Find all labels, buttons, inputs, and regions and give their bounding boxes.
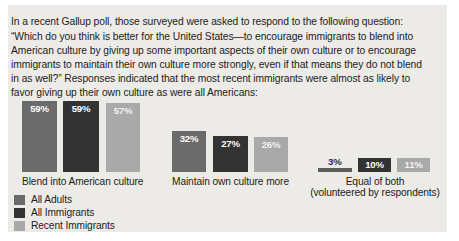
poll-figure: In a recent Gallup poll, those surveyed … — [0, 0, 459, 241]
bar-wrap-all-adults: 32% — [172, 131, 206, 172]
bar-group-label-line1: Maintain own culture more — [172, 176, 289, 187]
bar-group-label-line2: (volunteered by respondents) — [304, 187, 446, 198]
bar-value-label: 59% — [22, 101, 57, 114]
bar-all-adults: 59% — [22, 101, 57, 172]
bar-wrap-recent-immigrants: 57% — [106, 103, 140, 172]
legend-label-all-immigrants: All Immigrants — [31, 207, 94, 219]
bar-all-adults: 32% — [172, 131, 206, 172]
bar-value-label: 27% — [213, 136, 248, 149]
bar-group-label-blend: Blend into American culture — [22, 172, 143, 187]
bar-group-maintain: 32% 27% 26% Maintain own culture more — [172, 90, 288, 172]
bar-wrap-all-immigrants: 59% — [63, 101, 99, 172]
legend-item-all-adults: All Adults — [14, 193, 115, 206]
bar-group-label-equal: Equal of both (volunteered by respondent… — [304, 172, 446, 198]
bar-wrap-all-adults: 59% — [22, 101, 57, 172]
bar-value-label: 26% — [254, 137, 288, 150]
bar-value-label: 32% — [172, 131, 206, 144]
bar-group-equal: 3% 10% 11% Equal of both (volunteered by… — [318, 90, 430, 172]
bar-wrap-all-immigrants: 27% — [213, 136, 248, 172]
legend-label-recent-immigrants: Recent Immigrants — [31, 220, 115, 232]
bar-value-label: 3% — [318, 156, 352, 168]
bar-recent-immigrants: 26% — [254, 137, 288, 172]
bar-group-label-line1: Blend into American culture — [22, 176, 143, 187]
bar-wrap-recent-immigrants: 26% — [254, 137, 288, 172]
bar-all-immigrants: 10% — [358, 158, 392, 172]
bar-value-label: 59% — [63, 101, 99, 114]
bar-value-label: 10% — [358, 158, 392, 170]
bar-group-label-line1: Equal of both — [346, 176, 405, 187]
legend-item-recent-immigrants: Recent Immigrants — [14, 219, 115, 232]
bar-value-label: 57% — [106, 103, 140, 116]
bar-group-blend-bars: 59% 59% 57% — [22, 90, 142, 172]
bar-recent-immigrants: 57% — [106, 103, 140, 172]
bar-group-equal-bars: 3% 10% 11% — [318, 90, 430, 172]
chart-legend: All Adults All Immigrants Recent Immigra… — [14, 193, 115, 232]
bar-recent-immigrants: 11% — [397, 158, 430, 172]
bar-group-label-maintain: Maintain own culture more — [172, 172, 289, 187]
legend-swatch-recent-immigrants — [14, 221, 25, 231]
bar-wrap-recent-immigrants: 11% — [397, 158, 430, 172]
legend-label-all-adults: All Adults — [31, 194, 72, 206]
legend-swatch-all-immigrants — [14, 208, 25, 218]
bar-group-maintain-bars: 32% 27% 26% — [172, 90, 288, 172]
legend-item-all-immigrants: All Immigrants — [14, 206, 115, 219]
bar-group-blend: 59% 59% 57% Blend into American culture — [22, 90, 142, 172]
bar-wrap-all-immigrants: 10% — [358, 158, 392, 172]
bar-value-label: 11% — [397, 158, 430, 170]
bar-all-immigrants: 59% — [63, 101, 99, 172]
bar-all-immigrants: 27% — [213, 136, 248, 172]
legend-swatch-all-adults — [14, 195, 25, 205]
